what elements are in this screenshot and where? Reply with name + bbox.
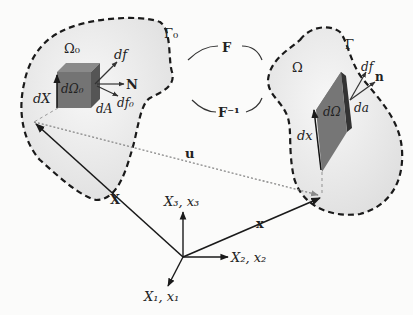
label-gamma: Γ: [345, 37, 354, 52]
coordinate-axes: [168, 212, 228, 286]
position-x-vector: [183, 198, 320, 257]
label-da: da: [354, 101, 369, 115]
label-axis-2: X₂, x₂: [230, 250, 266, 265]
label-axis-3: X₃, x₃: [163, 194, 199, 209]
label-df0: df₀: [117, 96, 134, 110]
deformation-diagram: Ω₀ Γ₀ dΩ₀ dX dA N df df₀ Ω Γ dΩ dx da n …: [0, 0, 413, 315]
label-dOmega0: dΩ₀: [61, 82, 84, 96]
label-n: n: [375, 70, 384, 84]
label-gamma0: Γ₀: [164, 26, 178, 41]
label-F-inverse: F⁻¹: [218, 105, 240, 120]
label-N: N: [126, 77, 138, 92]
label-df: df: [114, 47, 129, 62]
label-u: u: [185, 146, 194, 161]
label-axis-1: X₁, x₁: [143, 289, 179, 304]
label-df-current: df: [361, 60, 376, 74]
axis-1: [168, 257, 183, 286]
label-dx: dx: [297, 128, 313, 143]
label-dOmega: dΩ: [323, 105, 341, 119]
label-omega: Ω: [292, 60, 303, 75]
mapping-arcs: [188, 46, 262, 112]
label-x: x: [256, 216, 264, 231]
label-X: X: [110, 192, 121, 207]
label-dA: dA: [96, 102, 113, 116]
label-dX: dX: [33, 91, 51, 106]
label-F: F: [222, 40, 232, 55]
label-omega0: Ω₀: [64, 41, 80, 56]
